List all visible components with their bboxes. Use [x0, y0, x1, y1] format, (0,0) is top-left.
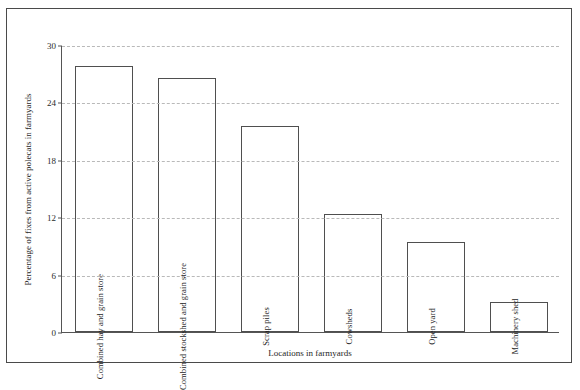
gridline [62, 103, 559, 104]
bars-layer: Combined hay and grain storeCombined sto… [62, 46, 559, 332]
y-tick-label: 30 [47, 42, 56, 51]
x-axis-title: Locations in farmyards [61, 349, 559, 358]
bar-category-label: Open yard [427, 308, 436, 345]
plot-area: Combined hay and grain storeCombined sto… [61, 46, 559, 333]
y-tick-mark [58, 275, 62, 276]
gridline [62, 276, 559, 277]
bar[interactable] [241, 126, 299, 332]
bar-category-label: Combined hay and grain store [95, 273, 104, 378]
gridline [62, 46, 559, 47]
y-tick-label: 12 [47, 214, 56, 223]
figure-border: Percentage of fixes from active polecats… [6, 8, 572, 363]
y-tick-mark [58, 218, 62, 219]
gridline [62, 161, 559, 162]
bar-category-label: Combined stockshed and grain store [178, 262, 187, 389]
bar-category-label: Scrap piles [261, 307, 270, 346]
y-tick-mark [58, 46, 62, 47]
gridline [62, 218, 559, 219]
y-tick-mark [58, 160, 62, 161]
bar-category-label: Cowsheds [344, 308, 353, 344]
y-tick-mark [58, 103, 62, 104]
y-tick-label: 6 [52, 271, 57, 280]
y-tick-label: 0 [52, 329, 57, 338]
y-tick-label: 18 [47, 156, 56, 165]
y-axis-title: Percentage of fixes from active polecats… [21, 46, 35, 333]
y-tick-mark [58, 333, 62, 334]
bar-category-label: Machinery shed [510, 298, 519, 354]
y-tick-label: 24 [47, 99, 56, 108]
